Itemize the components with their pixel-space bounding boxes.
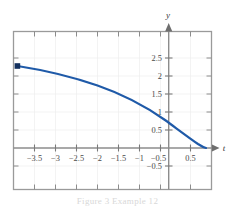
endpoint-marker xyxy=(15,63,21,69)
x-tick-label: 0.5 xyxy=(185,154,195,163)
x-tick-label: −3.5 xyxy=(27,154,42,163)
x-axis-label: t xyxy=(223,143,226,153)
figure-caption: Figure 3 Example 12 xyxy=(0,195,235,206)
x-tick-label: −2.5 xyxy=(69,154,84,163)
y-tick-label: 2 xyxy=(158,72,162,81)
y-tick-label: 1 xyxy=(158,108,162,117)
x-tick-label: −1 xyxy=(135,154,144,163)
x-tick-label: −2 xyxy=(93,154,102,163)
y-tick-label: 2.5 xyxy=(152,54,162,63)
y-axis-label: y xyxy=(165,10,170,20)
y-tick-label: 1.5 xyxy=(152,90,162,99)
y-tick-label: −0.5 xyxy=(147,162,162,171)
figure-container: −3.5 −3 −2.5 −2 −1.5 −1 −0.5 0.5 2.5 2 1… xyxy=(0,0,235,206)
y-tick-label: 0.5 xyxy=(152,126,162,135)
x-tick-label: −1.5 xyxy=(111,154,126,163)
graph-canvas: −3.5 −3 −2.5 −2 −1.5 −1 −0.5 0.5 2.5 2 1… xyxy=(0,0,235,206)
x-tick-label: −3 xyxy=(51,154,60,163)
